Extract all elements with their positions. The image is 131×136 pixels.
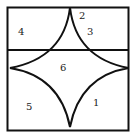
outer-square <box>8 8 129 131</box>
region-label-1: 1 <box>93 97 99 108</box>
region-label-3: 3 <box>87 26 93 37</box>
region-label-6: 6 <box>60 62 66 73</box>
geometry-diagram: 1 2 3 4 5 6 <box>0 0 131 136</box>
region-label-4: 4 <box>18 26 24 37</box>
region-label-2: 2 <box>79 10 85 21</box>
region-label-5: 5 <box>26 101 32 112</box>
